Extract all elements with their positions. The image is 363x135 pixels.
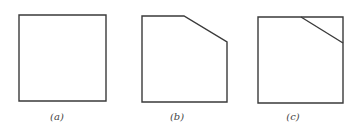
panel-c-label: (c) bbox=[278, 111, 308, 123]
panel-a-label: (a) bbox=[42, 111, 72, 123]
figure: (a) (b) (c) bbox=[0, 0, 363, 135]
panel-b-label: (b) bbox=[162, 111, 192, 123]
panel-c-square bbox=[258, 17, 343, 103]
panel-a-square bbox=[19, 15, 106, 101]
panel-c-cut-line bbox=[301, 17, 343, 43]
panel-b-chamfered-square bbox=[142, 16, 227, 102]
